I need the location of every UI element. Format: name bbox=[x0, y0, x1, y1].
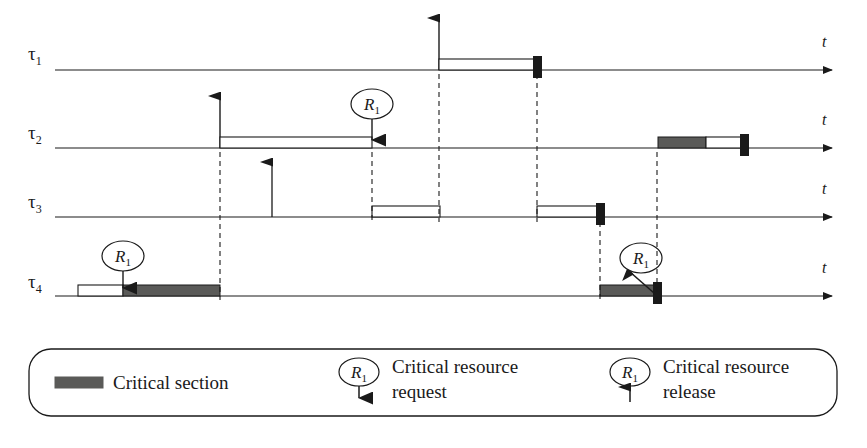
timing-diagram-canvas: τ1 t τ2 t bbox=[0, 0, 867, 448]
tau1-execution-block bbox=[439, 59, 537, 70]
tau1-label: τ1 bbox=[28, 43, 42, 68]
tau3-axis-label: t bbox=[822, 180, 827, 197]
timing-diagram-figure: τ1 t τ2 t bbox=[0, 0, 867, 448]
dashed-guide-lines bbox=[220, 74, 657, 300]
task-row-tau3: τ3 t bbox=[28, 162, 832, 225]
tau2-label: τ2 bbox=[28, 122, 42, 147]
tau4-axis-label: t bbox=[822, 259, 827, 276]
tau3-execution-block-1 bbox=[372, 206, 440, 217]
legend-item-resource-request-label-line1: Critical resource bbox=[392, 356, 518, 377]
tau2-end-marker bbox=[740, 134, 749, 156]
tau2-execution-block-1 bbox=[220, 137, 372, 148]
tau4-end-marker bbox=[653, 282, 662, 304]
legend-item-resource-release-label-line2: release bbox=[663, 381, 716, 402]
task-row-tau2: τ2 t R1 bbox=[28, 89, 832, 156]
tau4-critical-section-block-2 bbox=[600, 285, 657, 296]
task-row-tau1: τ1 t bbox=[28, 18, 832, 78]
legend-panel: Critical section R1 Critical resource re… bbox=[29, 349, 837, 416]
tau4-label: τ4 bbox=[28, 271, 42, 296]
tau3-execution-block-2 bbox=[537, 206, 600, 217]
tau2-axis-label: t bbox=[822, 111, 827, 128]
legend-item-resource-request-label-line2: request bbox=[392, 381, 448, 402]
task-row-tau4: τ4 t R1 R1 bbox=[28, 241, 832, 304]
tau2-execution-block-2 bbox=[706, 137, 744, 148]
tau2-resource-request-marker: R1 bbox=[351, 89, 393, 140]
tau4-execution-block-1 bbox=[78, 285, 123, 296]
legend-item-resource-release-label-line1: Critical resource bbox=[663, 356, 789, 377]
tau4-resource-request-marker: R1 bbox=[102, 241, 144, 288]
tau1-axis-label: t bbox=[822, 33, 827, 50]
critical-section-swatch-icon bbox=[55, 377, 103, 388]
tau2-critical-section-block bbox=[658, 137, 706, 148]
tau4-critical-section-block-1 bbox=[123, 285, 220, 296]
tau3-label: τ3 bbox=[28, 191, 42, 216]
legend-item-critical-section-label: Critical section bbox=[113, 372, 229, 393]
tau3-end-marker bbox=[596, 203, 605, 225]
